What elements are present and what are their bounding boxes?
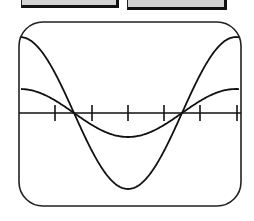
graph-frame	[19, 22, 241, 206]
graph-screen	[0, 0, 254, 221]
